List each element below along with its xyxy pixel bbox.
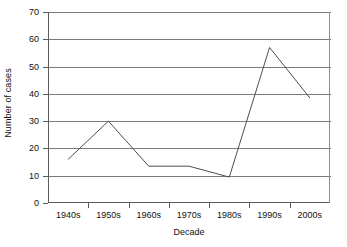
y-axis-title-text: Number of cases xyxy=(3,68,13,138)
y-axis-tick-mark xyxy=(43,121,48,122)
x-axis-tick-label: 2000s xyxy=(298,210,323,220)
x-axis-tick-mark xyxy=(290,203,291,208)
line-chart: Number of cases 010203040506070 1940s195… xyxy=(0,0,347,247)
x-axis-tick-mark xyxy=(209,203,210,208)
x-axis-tick-labels: 1940s1950s1960s1970s1980s1990s2000s xyxy=(48,210,330,224)
y-axis-tick-label: 10 xyxy=(29,172,39,181)
y-axis-tick-label: 30 xyxy=(29,117,39,126)
y-axis-tick-mark xyxy=(43,148,48,149)
y-axis-tick-mark xyxy=(43,39,48,40)
x-axis-tick-label: 1960s xyxy=(136,210,161,220)
y-axis-tick-mark xyxy=(43,94,48,95)
series-line-number-of-cases xyxy=(68,47,310,177)
y-axis-tick-mark xyxy=(43,67,48,68)
x-axis-tick-mark xyxy=(129,203,130,208)
y-axis-tick-label: 0 xyxy=(34,199,39,208)
x-axis-tick-label: 1970s xyxy=(177,210,202,220)
x-axis-tick-mark xyxy=(88,203,89,208)
y-axis-tick-label: 40 xyxy=(29,90,39,99)
y-axis-tick-labels: 010203040506070 xyxy=(16,6,42,204)
y-axis-tick-mark xyxy=(43,203,48,204)
y-axis-tick-label: 70 xyxy=(29,8,39,17)
x-axis-tick-label: 1950s xyxy=(96,210,121,220)
y-axis-title: Number of cases xyxy=(0,0,16,205)
y-axis-tick-label: 60 xyxy=(29,35,39,44)
x-axis-tick-label: 1940s xyxy=(56,210,81,220)
y-axis-tick-mark xyxy=(43,176,48,177)
x-axis-tick-label: 1980s xyxy=(217,210,242,220)
series-layer xyxy=(48,12,330,203)
x-axis-title: Decade xyxy=(48,227,330,237)
y-axis-tick-label: 50 xyxy=(29,63,39,72)
x-axis-tick-mark xyxy=(249,203,250,208)
x-axis-tick-mark xyxy=(169,203,170,208)
y-axis-tick-label: 20 xyxy=(29,144,39,153)
y-axis-tick-mark xyxy=(43,12,48,13)
x-axis-tick-label: 1990s xyxy=(257,210,282,220)
